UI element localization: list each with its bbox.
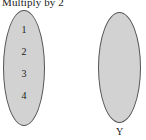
domain-element: 3: [22, 69, 27, 79]
diagram-title: Multiply by 2: [2, 0, 64, 8]
function-mapping-diagram: Multiply by 2 1 2 3 4 Y: [0, 0, 146, 140]
codomain-set-ellipse: [98, 12, 141, 123]
codomain-set-label: Y: [98, 126, 141, 137]
domain-element: 1: [22, 25, 27, 35]
domain-element: 2: [22, 47, 27, 57]
domain-element: 4: [22, 91, 27, 101]
domain-element-list: 1 2 3 4: [3, 10, 45, 126]
